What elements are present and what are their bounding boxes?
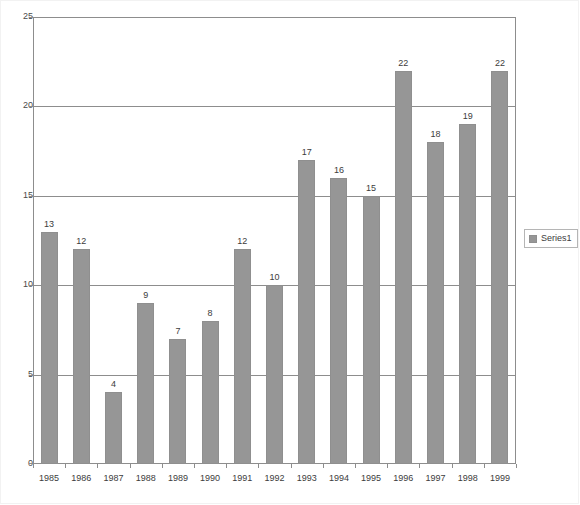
legend-label-series1: Series1 (541, 234, 572, 243)
plot-area (33, 17, 516, 464)
x-axis-tick-mark (355, 464, 356, 468)
x-axis-tick-mark (323, 464, 324, 468)
x-axis-tick-label: 1997 (420, 474, 452, 483)
gridline (34, 285, 515, 286)
x-axis-tick-label: 1991 (226, 474, 258, 483)
gridline (34, 196, 515, 197)
x-axis-tick-label: 1992 (259, 474, 291, 483)
gridline (34, 375, 515, 376)
x-axis-tick-label: 1987 (98, 474, 130, 483)
x-axis-tick-mark (484, 464, 485, 468)
legend-swatch-series1-icon (529, 235, 537, 243)
x-axis-tick-label: 1985 (33, 474, 65, 483)
x-axis-tick-label: 1999 (484, 474, 516, 483)
x-axis-tick-label: 1996 (387, 474, 419, 483)
x-axis-tick-label: 1998 (452, 474, 484, 483)
gridline (34, 106, 515, 107)
x-axis-tick-label: 1994 (323, 474, 355, 483)
chart-legend[interactable]: Series1 (524, 229, 578, 248)
y-axis: 0510152025 (0, 17, 33, 464)
x-axis-tick-label: 1993 (291, 474, 323, 483)
x-axis-tick-mark (194, 464, 195, 468)
x-axis-tick-mark (452, 464, 453, 468)
x-axis-tick-label: 1986 (65, 474, 97, 483)
x-axis-tick-mark (258, 464, 259, 468)
x-axis-tick-label: 1990 (194, 474, 226, 483)
x-axis-tick-mark (516, 464, 517, 468)
x-axis-tick-mark (226, 464, 227, 468)
x-axis: 1985198619871988198919901991199219931994… (33, 464, 516, 488)
x-axis-tick-mark (65, 464, 66, 468)
x-axis-tick-mark (33, 464, 34, 468)
x-axis-tick-mark (130, 464, 131, 468)
x-axis-tick-mark (387, 464, 388, 468)
x-axis-tick-label: 1988 (130, 474, 162, 483)
x-axis-tick-mark (162, 464, 163, 468)
x-axis-tick-mark (291, 464, 292, 468)
x-axis-tick-mark (419, 464, 420, 468)
bar-chart: 0510152025 13124978121017161522181922 19… (0, 0, 580, 505)
x-axis-tick-mark (97, 464, 98, 468)
x-axis-tick-label: 1989 (162, 474, 194, 483)
x-axis-tick-label: 1995 (355, 474, 387, 483)
